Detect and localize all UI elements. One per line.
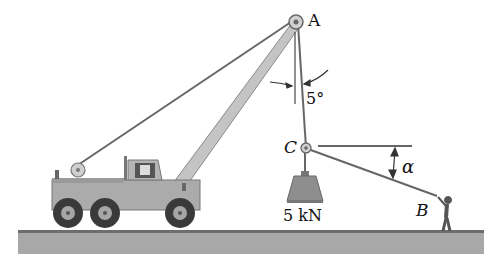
pulley-a xyxy=(289,15,303,29)
diagram-graphics xyxy=(0,0,484,263)
label-angle-5: 5° xyxy=(306,89,324,108)
label-load: 5 kN xyxy=(283,206,322,225)
joint-c xyxy=(301,143,311,153)
label-alpha: α xyxy=(402,156,414,177)
label-point-b: B xyxy=(416,200,429,220)
angle-alpha-arrow xyxy=(389,148,398,178)
cable-ac xyxy=(298,24,306,148)
rope-cb xyxy=(308,149,437,196)
person-b xyxy=(438,197,452,232)
crane-diagram: A 5° C α B 5 kN xyxy=(0,0,484,263)
angle-5-arrows xyxy=(270,70,328,88)
hoist-cable xyxy=(78,20,294,165)
crane-boom xyxy=(168,20,300,192)
ground xyxy=(18,230,484,254)
crane-truck xyxy=(52,156,200,228)
label-point-a: A xyxy=(308,10,320,30)
label-point-c: C xyxy=(284,137,297,157)
weight-5kn xyxy=(287,153,323,203)
